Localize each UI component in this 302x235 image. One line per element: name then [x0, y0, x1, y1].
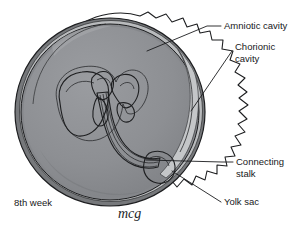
embryology-figure-8th-week: Amniotic cavity Chorionic cavity Connect… [0, 0, 302, 235]
amniotic-sac [15, 18, 205, 206]
label-yolk-sac: Yolk sac [224, 196, 259, 207]
label-chorionic-cavity-line1: Chorionic [235, 41, 275, 52]
label-chorionic-cavity-line2: cavity [235, 53, 260, 64]
artist-signature: mcg [118, 206, 141, 221]
caption-week: 8th week [14, 197, 52, 208]
figure-illustration: Amniotic cavity Chorionic cavity Connect… [0, 0, 302, 235]
label-amniotic-cavity: Amniotic cavity [224, 20, 288, 31]
label-connecting-stalk-line2: stalk [236, 168, 256, 179]
label-connecting-stalk-line1: Connecting [236, 156, 284, 167]
